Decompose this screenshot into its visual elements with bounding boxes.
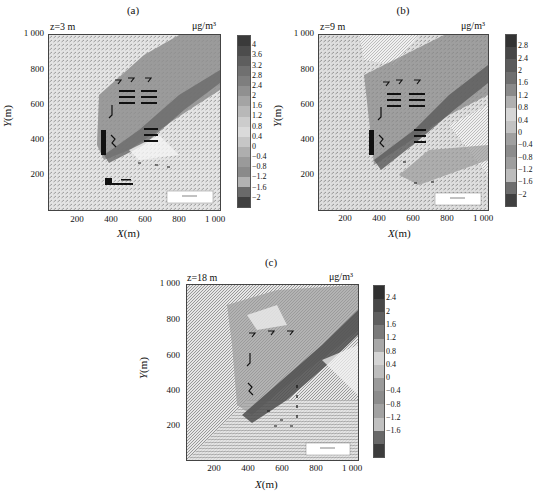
colorbar-swatch [238,46,250,56]
colorbar-swatch [238,86,250,96]
colorbar-swatch [506,47,516,59]
y-tick: 600 [278,99,314,109]
colorbar-swatch [506,59,516,71]
panel-c-heatmap [187,285,358,460]
colorbar-swatch [506,84,516,96]
colorbar-swatch [238,117,250,127]
colorbar-swatch [506,96,516,108]
colorbar-tick-label: 2.4 [518,54,528,63]
y-tick: 400 [8,134,44,144]
x-tick: 1 000 [334,463,370,473]
colorbar-tick-label: 4 [252,40,256,49]
colorbar-tick-label: −0.4 [518,140,533,149]
panel-b-colorbar [505,34,517,207]
panel-c-colorbar [373,285,385,458]
x-tick: 400 [361,213,397,223]
colorbar-swatch [374,365,384,378]
colorbar-swatch [238,187,250,197]
colorbar-swatch [374,404,384,417]
colorbar-tick-label: 0 [252,142,256,151]
colorbar-swatch [374,286,384,299]
colorbar-swatch [374,339,384,352]
colorbar-tick-label: −0.8 [252,162,267,171]
colorbar-tick-label: 2.4 [386,293,396,302]
colorbar-swatch [238,177,250,187]
colorbar-swatch [374,418,384,431]
colorbar-tick-label: −1.6 [518,177,533,186]
colorbar-tick-label: 3.6 [252,50,262,59]
x-axis-label: X(m) [117,227,140,239]
y-tick: 800 [144,314,180,324]
colorbar-tick-label: −1.2 [252,172,267,181]
panel-a-unit-label: μg/m³ [192,20,216,31]
y-tick: 1 000 [278,28,314,38]
colorbar-swatch [374,444,384,457]
colorbar-tick-label: 1.2 [518,91,528,100]
colorbar-swatch [238,127,250,137]
y-axis-label: Y(m) [1,105,13,127]
colorbar-tick-label: 2.8 [252,71,262,80]
colorbar-tick-label: 0.8 [518,103,528,112]
colorbar-tick-label: 2.4 [252,81,262,90]
colorbar-swatch [238,96,250,106]
x-axis-label: X(m) [255,478,278,490]
colorbar-swatch [238,147,250,157]
colorbar-swatch [374,312,384,325]
colorbar-swatch [238,137,250,147]
colorbar-swatch [238,106,250,116]
colorbar-tick-label: 2 [518,66,522,75]
colorbar-swatch [374,325,384,338]
colorbar-tick-label: 0.4 [518,116,528,125]
colorbar-swatch [506,194,516,206]
colorbar-tick-label: −0.4 [252,152,267,161]
colorbar-swatch [374,431,384,444]
x-axis-label: X(m) [388,227,411,239]
colorbar-swatch [506,133,516,145]
panel-b-unit-label: μg/m³ [461,20,485,31]
y-tick: 600 [8,99,44,109]
colorbar-tick-label: −2 [252,193,261,202]
colorbar-swatch [506,121,516,133]
y-tick: 800 [8,64,44,74]
y-tick: 200 [278,169,314,179]
colorbar-swatch [238,157,250,167]
y-tick: 1 000 [144,278,180,288]
colorbar-swatch [238,66,250,76]
colorbar-tick-label: 3.2 [252,61,262,70]
colorbar-tick-label: 0 [386,373,390,382]
colorbar-swatch [506,157,516,169]
colorbar-tick-label: 2 [252,91,256,100]
x-tick: 800 [298,463,334,473]
colorbar-swatch [506,182,516,194]
panel-a-heatmap [49,35,220,210]
colorbar-tick-label: 0 [518,128,522,137]
colorbar-tick-label: 0.8 [386,347,396,356]
colorbar-tick-label: 0.4 [386,360,396,369]
panel-b-heatmap [319,35,488,210]
panel-a-height-label: z=3 m [50,21,75,32]
x-tick: 200 [327,213,363,223]
colorbar-tick-label: −2 [518,190,527,199]
panel-a-colorbar [237,35,251,208]
colorbar-swatch [238,36,250,46]
y-tick: 1 000 [8,28,44,38]
y-tick: 200 [8,169,44,179]
x-tick: 800 [161,214,197,224]
colorbar-swatch [238,56,250,66]
panel-c-title: (c) [251,256,291,268]
panel-b-plot-area [318,34,489,211]
colorbar-tick-label: −0.8 [386,400,401,409]
colorbar-tick-label: 1.6 [252,101,262,110]
y-tick: 200 [144,420,180,430]
colorbar-swatch [374,299,384,312]
panel-b-title: (b) [383,4,423,16]
x-tick: 1 000 [197,214,233,224]
y-tick: 600 [144,350,180,360]
colorbar-tick-label: −0.4 [386,386,401,395]
panel-c-plot-area [186,284,359,461]
y-axis-label: Y(m) [271,105,283,127]
colorbar-tick-label: 2.8 [518,41,528,50]
x-tick: 400 [93,214,129,224]
colorbar-tick-label: −1.6 [386,426,401,435]
x-tick: 600 [127,214,163,224]
